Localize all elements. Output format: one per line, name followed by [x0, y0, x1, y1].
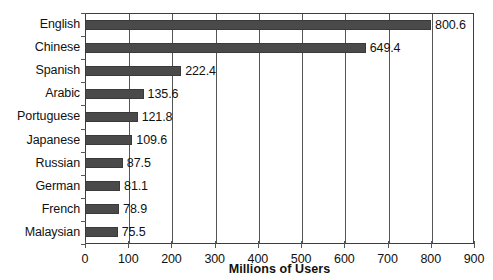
bar-row: 87.5 [85, 152, 474, 175]
category-label-portuguese: Portuguese [17, 105, 80, 128]
bar-english [85, 20, 431, 30]
x-axis-tick-800 [431, 241, 432, 248]
category-label-german: German [35, 175, 80, 198]
x-axis-title: Millions of Users [85, 262, 474, 276]
category-label-english: English [40, 13, 80, 36]
bar-russian [85, 158, 123, 168]
category-label-spanish: Spanish [36, 59, 80, 82]
bar-value-english: 800.6 [431, 18, 466, 32]
bar-value-french: 78.9 [119, 202, 147, 216]
bar-row: 75.5 [85, 221, 474, 244]
x-axis-tick-100 [128, 241, 129, 248]
bar-row: 109.6 [85, 129, 474, 152]
x-axis-tick-200 [171, 241, 172, 248]
bar-german [85, 181, 120, 191]
x-axis-tick-400 [258, 241, 259, 248]
bar-row: 135.6 [85, 82, 474, 105]
category-label-japanese: Japanese [27, 129, 80, 152]
category-label-russian: Russian [36, 152, 80, 175]
bar-value-chinese: 649.4 [366, 41, 401, 55]
bar-value-russian: 87.5 [123, 156, 151, 170]
bar-value-japanese: 109.6 [132, 133, 167, 147]
bar-value-malaysian: 75.5 [118, 225, 146, 239]
bar-row: 222.4 [85, 59, 474, 82]
bar-portuguese [85, 112, 138, 122]
bar-row: 78.9 [85, 198, 474, 221]
category-label-french: French [42, 198, 80, 221]
category-label-arabic: Arabic [45, 82, 80, 105]
bar-value-german: 81.1 [120, 179, 148, 193]
x-axis-tick-600 [344, 241, 345, 248]
category-label-chinese: Chinese [35, 36, 80, 59]
x-axis-tick-500 [301, 241, 302, 248]
bar-malaysian [85, 227, 118, 237]
x-axis-tick-900 [474, 241, 475, 248]
bar-row: 800.6 [85, 13, 474, 36]
bar-value-portuguese: 121.8 [138, 110, 173, 124]
bar-spanish [85, 66, 181, 76]
x-axis-tick-700 [388, 241, 389, 248]
x-axis-tick-300 [215, 241, 216, 248]
bar-chinese [85, 43, 366, 53]
bar-chart: EnglishChineseSpanishArabicPortugueseJap… [0, 0, 493, 280]
category-label-malaysian: Malaysian [25, 221, 80, 244]
x-axis-tick-0 [85, 241, 86, 248]
bar-row: 81.1 [85, 175, 474, 198]
bar-row: 649.4 [85, 36, 474, 59]
bar-row: 121.8 [85, 105, 474, 128]
bar-value-spanish: 222.4 [181, 64, 216, 78]
bar-series: 800.6649.4222.4135.6121.8109.687.581.178… [85, 13, 474, 244]
bar-arabic [85, 89, 144, 99]
bar-value-arabic: 135.6 [144, 87, 179, 101]
bar-japanese [85, 135, 132, 145]
bar-french [85, 204, 119, 214]
category-axis-labels: EnglishChineseSpanishArabicPortugueseJap… [0, 13, 80, 244]
